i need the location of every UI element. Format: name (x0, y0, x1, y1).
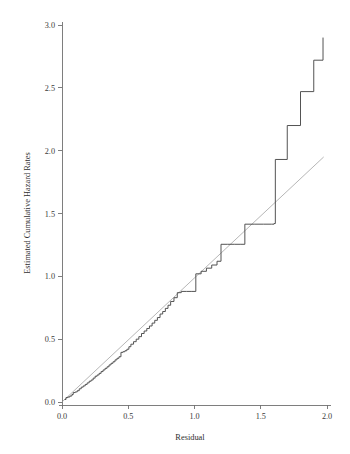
x-tick-label: 1.0 (189, 412, 199, 421)
x-tick-label: 0.5 (123, 412, 133, 421)
y-axis-title: Estimated Cumulative Hazard Rates (23, 152, 32, 274)
y-tick-group: 0.00.51.01.52.02.53.0 (45, 21, 62, 407)
x-tick-label: 0.0 (57, 412, 67, 421)
y-tick-label: 0.5 (45, 335, 55, 344)
y-tick-label: 2.5 (45, 84, 55, 93)
chart-plot-area: 0.00.51.01.52.02.53.0 0.00.51.01.52.0 Re… (0, 0, 350, 454)
y-tick-label: 2.0 (45, 147, 55, 156)
y-tick-label: 0.0 (45, 398, 55, 407)
reference-line-series (63, 157, 324, 401)
x-tick-label: 2.0 (322, 412, 332, 421)
x-tick-label: 1.5 (256, 412, 266, 421)
y-tick-label: 1.0 (45, 272, 55, 281)
x-tick-group: 0.00.51.01.52.0 (57, 405, 332, 421)
chart-figure: 0.00.51.01.52.02.53.0 0.00.51.01.52.0 Re… (0, 0, 350, 454)
y-tick-label: 1.5 (45, 210, 55, 219)
y-tick-label: 3.0 (45, 21, 55, 30)
x-axis-title: Residual (175, 433, 205, 442)
cumulative-hazard-step-series (65, 38, 323, 400)
